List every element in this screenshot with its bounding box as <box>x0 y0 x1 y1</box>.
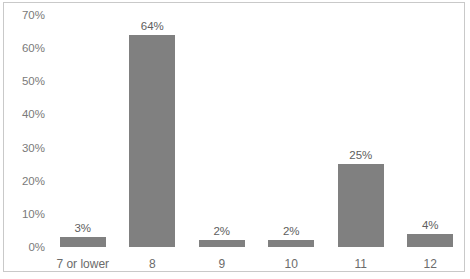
bar-value-label: 2% <box>213 225 230 237</box>
bar-group: 64%8 <box>118 3 188 271</box>
bar-value-label: 4% <box>422 219 439 231</box>
x-axis-category-label: 10 <box>285 257 298 271</box>
bar-chart-figure: 0%10%20%30%40%50%60%70% 3%7 or lower64%8… <box>3 2 465 272</box>
bar[interactable] <box>338 164 384 247</box>
bar-group: 3%7 or lower <box>48 3 118 271</box>
y-axis-tick-label: 50% <box>5 75 45 87</box>
bar-group: 4%12 <box>396 3 466 271</box>
bar-value-label: 3% <box>74 222 91 234</box>
x-axis-category-label: 11 <box>355 257 367 271</box>
x-axis-category-label: 8 <box>149 257 156 271</box>
bars-layer: 3%7 or lower64%82%92%1025%114%12 <box>48 3 464 271</box>
y-axis-tick-label: 30% <box>5 142 45 154</box>
y-axis-tick-label: 20% <box>5 175 45 187</box>
bar-value-label: 64% <box>141 20 164 32</box>
x-axis-category-label: 12 <box>424 257 437 271</box>
plot-area: 3%7 or lower64%82%92%1025%114%12 <box>48 3 464 271</box>
bar[interactable] <box>129 35 175 247</box>
bar-value-label: 2% <box>283 225 300 237</box>
bar-value-label: 25% <box>349 149 372 161</box>
y-axis-tick-label: 60% <box>5 42 45 54</box>
bar-group: 2%9 <box>187 3 257 271</box>
bar[interactable] <box>199 240 245 247</box>
x-axis-category-label: 9 <box>218 257 225 271</box>
x-axis-category-label: 7 or lower <box>56 257 109 271</box>
y-axis-tick-label: 40% <box>5 108 45 120</box>
y-axis-tick-label: 0% <box>5 241 45 253</box>
bar-group: 25%11 <box>326 3 396 271</box>
bar[interactable] <box>268 240 314 247</box>
bar-group: 2%10 <box>257 3 327 271</box>
y-axis: 0%10%20%30%40%50%60%70% <box>4 3 48 271</box>
bar[interactable] <box>407 234 453 247</box>
y-axis-tick-label: 10% <box>5 208 45 220</box>
y-axis-tick-label: 70% <box>5 9 45 21</box>
bar[interactable] <box>60 237 106 247</box>
